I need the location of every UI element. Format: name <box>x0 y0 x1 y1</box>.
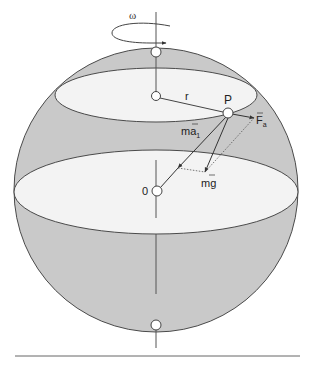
gravity-label: mg <box>201 177 216 189</box>
rotation-arrow-icon <box>112 23 170 43</box>
radius-label: r <box>185 90 189 102</box>
rotating-sphere-diagram: ω r Fa ma1 mg P 0 <box>0 0 313 366</box>
top-pivot <box>151 47 161 57</box>
latitude-center-node <box>152 92 161 101</box>
omega-label: ω <box>129 9 136 21</box>
point-p <box>223 108 233 118</box>
point-p-label: P <box>224 93 232 107</box>
origin-node <box>152 186 162 196</box>
bottom-pivot <box>151 320 161 330</box>
origin-label: 0 <box>142 185 148 197</box>
